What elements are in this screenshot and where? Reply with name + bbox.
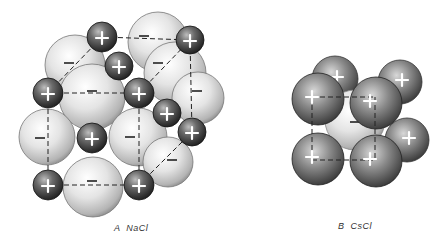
crystal-structures-diagram	[0, 0, 442, 241]
cesium-cation-sphere	[350, 77, 402, 129]
chloride-anion-sphere	[63, 157, 123, 217]
caption-cscl: B CsCl	[338, 221, 372, 231]
cesium-cation-sphere	[350, 135, 402, 187]
nacl-structure	[19, 12, 224, 217]
caption-nacl: A NaCl	[114, 223, 148, 233]
chloride-anion-sphere	[19, 109, 75, 165]
cesium-cation-sphere	[292, 133, 344, 185]
cscl-structure	[292, 56, 429, 187]
cesium-cation-sphere	[292, 73, 344, 125]
